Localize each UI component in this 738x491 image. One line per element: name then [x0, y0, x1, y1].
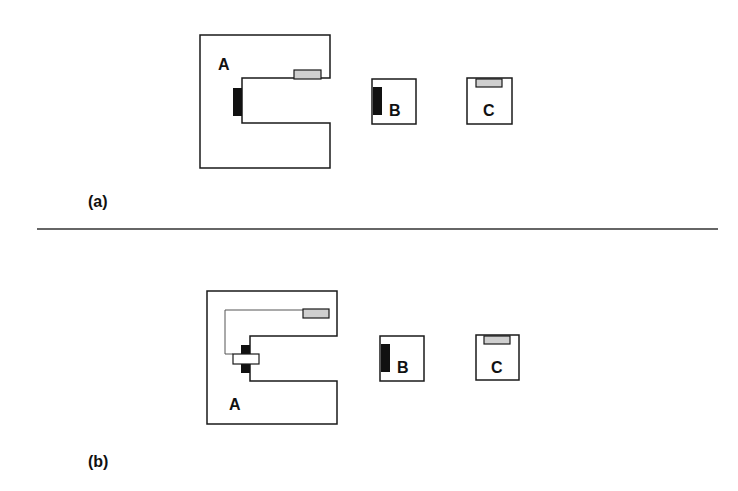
panel-caption: (a) — [88, 193, 108, 210]
component-b-panel-a: B — [372, 79, 416, 124]
panel-caption: (b) — [88, 453, 108, 470]
component-label: B — [389, 102, 401, 119]
component-c-panel-a: C — [467, 78, 512, 124]
panel-a: A B C (a) — [88, 35, 512, 210]
black-pad — [373, 87, 382, 115]
component-b-panel-b: B — [380, 336, 424, 381]
connector-bar — [233, 354, 259, 364]
gray-pad — [484, 336, 510, 344]
component-a-panel-a: A — [200, 35, 330, 168]
component-label: B — [397, 359, 409, 376]
component-label: C — [483, 102, 495, 119]
component-a-panel-b: A — [207, 291, 337, 424]
black-pad — [233, 88, 242, 116]
diagram-canvas: A B C (a) A — [0, 0, 738, 491]
component-label: A — [218, 56, 230, 73]
gray-pad — [294, 70, 321, 79]
component-label: C — [491, 359, 503, 376]
component-c-panel-b: C — [476, 335, 519, 380]
panel-b: A B C (b) — [88, 291, 519, 470]
gray-pad — [303, 309, 329, 318]
component-label: A — [229, 396, 241, 413]
black-pad — [381, 344, 390, 372]
gray-pad — [476, 79, 502, 87]
c-shape-outline — [200, 35, 330, 168]
